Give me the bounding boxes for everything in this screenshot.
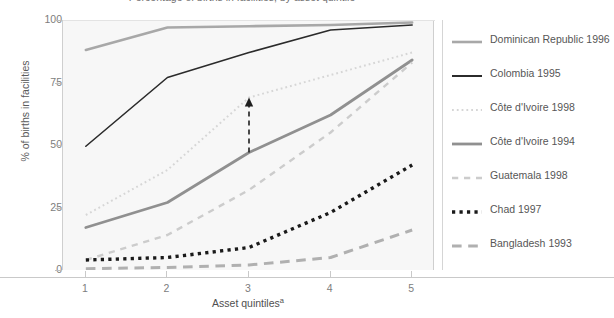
y-tick-mark [55, 208, 62, 209]
x-axis-line [0, 277, 614, 278]
x-tick-label: 1 [70, 282, 100, 294]
legend-swatch [452, 209, 482, 213]
chart-legend: Dominican Republic 1996Colombia 1995Côte… [452, 32, 614, 270]
y-tick-mark [55, 145, 62, 146]
x-tick-label: 2 [151, 282, 181, 294]
legend-swatch [452, 107, 482, 111]
legend-swatch [452, 243, 482, 247]
series-line [86, 23, 412, 51]
x-tick-mark [85, 271, 86, 277]
x-tick-label: 3 [233, 282, 263, 294]
chart-figure: Percentage of births in facilities, by a… [0, 0, 614, 318]
y-axis: % of births in facilities 0255075100 [0, 0, 62, 318]
legend-item[interactable]: Colombia 1995 [452, 66, 614, 100]
y-tick-mark [55, 83, 62, 84]
legend-divider [442, 20, 443, 270]
legend-label: Colombia 1995 [490, 66, 561, 80]
series-line [86, 230, 412, 269]
x-tick-mark [166, 271, 167, 277]
series-line [86, 25, 412, 146]
legend-item[interactable]: Côte d'Ivoire 1998 [452, 100, 614, 134]
y-tick-mark [55, 270, 62, 271]
x-axis-title: Asset quintilesa [62, 297, 434, 309]
legend-item[interactable]: Guatemala 1998 [452, 168, 614, 202]
legend-label: Côte d'Ivoire 1998 [490, 100, 575, 114]
legend-item[interactable]: Côte d'Ivoire 1994 [452, 134, 614, 168]
x-tick-mark [248, 271, 249, 277]
legend-swatch [452, 73, 482, 77]
plot-area [62, 20, 434, 270]
legend-label: Côte d'Ivoire 1994 [490, 134, 575, 148]
legend-swatch [452, 141, 482, 145]
series-line [86, 60, 412, 228]
improvement-arrow-annotation [245, 98, 253, 153]
legend-label: Guatemala 1998 [490, 168, 568, 182]
y-tick-mark [55, 20, 62, 21]
x-tick-mark [330, 271, 331, 277]
legend-swatch [452, 39, 482, 43]
legend-label: Chad 1997 [490, 202, 541, 216]
x-tick-label: 4 [315, 282, 345, 294]
x-axis-title-superscript: a [280, 296, 284, 305]
y-axis-title: % of births in facilities [19, 26, 31, 196]
legend-item[interactable]: Chad 1997 [452, 202, 614, 236]
chart-title: Percentage of births in facilities, by a… [62, 0, 422, 3]
x-tick-label: 5 [396, 282, 426, 294]
x-tick-mark [411, 271, 412, 277]
legend-item[interactable]: Bangladesh 1993 [452, 236, 614, 270]
legend-swatch [452, 175, 482, 179]
legend-label: Dominican Republic 1996 [490, 32, 610, 46]
arrow-head [245, 98, 253, 107]
legend-item[interactable]: Dominican Republic 1996 [452, 32, 614, 66]
x-axis-title-text: Asset quintiles [212, 297, 280, 309]
legend-label: Bangladesh 1993 [490, 236, 572, 250]
plot-canvas [63, 20, 435, 270]
